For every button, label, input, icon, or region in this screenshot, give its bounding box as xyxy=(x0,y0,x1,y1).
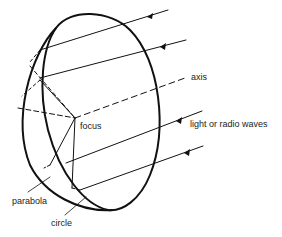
arrow-icon xyxy=(184,149,190,156)
arrow-icon xyxy=(176,117,182,124)
ray-2-dash xyxy=(22,80,40,96)
ray-3-dash xyxy=(44,165,50,168)
focus-label: focus xyxy=(80,121,102,131)
axis-line xyxy=(18,108,75,118)
parabola-label: parabola xyxy=(12,196,47,206)
ray-4-to-focus xyxy=(72,118,75,188)
axis-label: axis xyxy=(191,72,207,82)
circle-label: circle xyxy=(51,218,72,228)
ray-4 xyxy=(80,146,203,190)
axis-line-front xyxy=(75,78,185,118)
arrow-icon xyxy=(160,43,166,50)
ray-3-to-focus xyxy=(50,118,75,165)
waves-label: light or radio waves xyxy=(190,119,268,129)
